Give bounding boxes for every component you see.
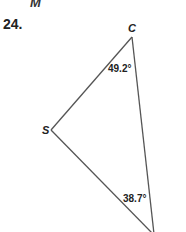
angle-label-c: 49.2° (108, 63, 131, 74)
angle-label-bottom: 38.7° (123, 193, 146, 204)
vertex-label-s: S (42, 124, 49, 136)
figure: M 24. C S 49.2° 38.7° (0, 0, 186, 232)
side-s-bottom (51, 130, 153, 232)
side-cs (51, 37, 132, 130)
previous-problem-label: M (30, 0, 41, 10)
problem-number: 24. (3, 16, 22, 32)
triangle-diagram (0, 0, 186, 232)
vertex-label-c: C (128, 22, 136, 34)
